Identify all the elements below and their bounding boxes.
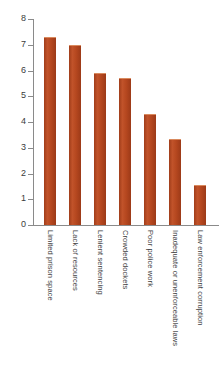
y-axis-tick-label: 7	[6, 40, 26, 49]
bar	[94, 73, 106, 225]
y-axis-line	[33, 19, 34, 226]
x-axis-category-label: Lack of resources	[71, 230, 79, 291]
x-axis-baseline	[33, 225, 219, 226]
y-axis-tick-label: 0	[6, 220, 26, 229]
y-axis-tick-label: 5	[6, 91, 26, 100]
x-axis-category-label: Limited prison space	[46, 230, 54, 301]
bar-chart: 012345678 Limited prison spaceLack of re…	[0, 0, 222, 377]
bar	[144, 114, 156, 225]
y-axis-tick-label: 3	[6, 143, 26, 152]
y-axis-tick-mark	[28, 45, 33, 46]
x-axis-category-label: Crowded dockets	[121, 230, 129, 289]
x-axis-category-label: Law enforcement corruption	[196, 230, 204, 326]
bar	[194, 185, 206, 225]
y-axis-tick-mark	[28, 122, 33, 123]
x-axis-category-label: Lenient sentencing	[96, 230, 104, 295]
x-axis-category-label: Poor police work	[146, 230, 154, 287]
y-axis-tick-mark	[28, 148, 33, 149]
y-axis-tick-mark	[28, 174, 33, 175]
y-axis-tick-mark	[28, 199, 33, 200]
bar	[69, 45, 81, 225]
y-axis-tick-label: 6	[6, 66, 26, 75]
y-axis-tick-label: 1	[6, 194, 26, 203]
y-axis-tick-mark	[28, 71, 33, 72]
x-axis-category-label: Inadequate or unenforceable laws	[171, 230, 179, 346]
y-axis-tick-mark	[28, 96, 33, 97]
bar	[169, 139, 181, 225]
bar	[119, 78, 131, 225]
bar	[44, 37, 56, 225]
y-axis-tick-mark	[28, 225, 33, 226]
y-axis-tick-label: 8	[6, 14, 26, 23]
y-axis-tick-mark	[28, 19, 33, 20]
y-axis-tick-label: 2	[6, 169, 26, 178]
y-axis-tick-label: 4	[6, 117, 26, 126]
